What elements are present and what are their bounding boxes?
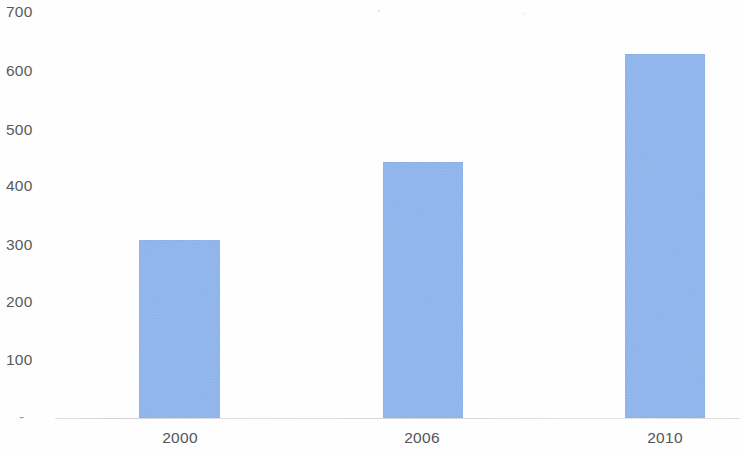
plot-area: 700 600 500 400 300 200 100 - 2000 2006 … xyxy=(0,0,743,453)
x-axis-tick-2010: 2010 xyxy=(625,430,705,446)
x-axis-line xyxy=(55,418,740,419)
bar-2000 xyxy=(139,240,220,418)
y-axis-tick-600: 600 xyxy=(6,63,60,79)
x-axis-tick-2006: 2006 xyxy=(382,430,462,446)
x-axis-tick-2000: 2000 xyxy=(140,430,220,446)
y-axis-tick-500: 500 xyxy=(6,122,60,138)
y-axis-tick-200: 200 xyxy=(6,294,60,310)
y-axis-tick-400: 400 xyxy=(6,178,60,194)
bar-2010 xyxy=(625,54,705,418)
y-axis-tick-100: 100 xyxy=(6,352,60,368)
y-axis-tick-300: 300 xyxy=(6,237,60,253)
bar-chart: 700 600 500 400 300 200 100 - 2000 2006 … xyxy=(0,0,743,453)
y-axis-tick-700: 700 xyxy=(6,4,60,20)
y-axis-tick-zero: - xyxy=(19,409,73,425)
bar-2006 xyxy=(383,162,463,418)
